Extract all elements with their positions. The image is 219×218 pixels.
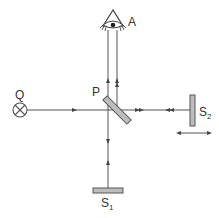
arrow-down-icon xyxy=(106,139,110,144)
label-source: Q xyxy=(15,88,24,102)
double-arrow-left-icon xyxy=(165,108,174,112)
double-arrow-right-icon xyxy=(135,108,144,112)
label-beam-splitter: P xyxy=(92,85,100,99)
eye-icon xyxy=(100,10,126,31)
interferometer-diagram: A Q P S2 S1 xyxy=(0,0,219,218)
arrow-right-icon xyxy=(72,108,77,112)
label-mirror-fixed: S1 xyxy=(101,196,114,212)
mirror-fixed xyxy=(93,188,123,193)
arrow-up-icon xyxy=(106,78,110,83)
label-observer: A xyxy=(128,15,136,29)
double-arrow-up-icon xyxy=(115,78,119,87)
arrow-up-icon-lower xyxy=(106,160,110,165)
light-source-icon xyxy=(13,103,27,117)
double-headed-arrow-icon xyxy=(176,131,212,135)
label-mirror-movable: S2 xyxy=(199,105,212,121)
mirror-movable xyxy=(190,95,195,126)
